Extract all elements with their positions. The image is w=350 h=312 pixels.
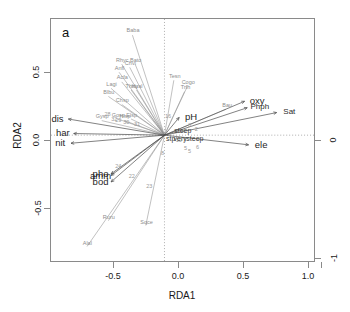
y-axis-title: RDA2: [12, 122, 23, 149]
x-axis-title: RDA1: [169, 290, 196, 301]
right-tick-mark-neg1: [315, 258, 321, 259]
factor-label: very: [174, 134, 187, 141]
species-label: Blbu: [103, 90, 114, 96]
species-label: Tesn: [169, 74, 181, 80]
site-label: 16: [165, 114, 171, 120]
right-axis-spine: [321, 262, 322, 268]
x-tick-label: -0.5: [105, 271, 121, 281]
site-label: 6: [196, 145, 199, 151]
site-label: 28: [104, 112, 110, 118]
env-variable-label: dis: [51, 114, 63, 124]
species-label: Baba: [127, 29, 140, 35]
site-label: 22: [129, 174, 135, 180]
site-label: 24: [115, 164, 121, 170]
vector-line: [108, 135, 164, 221]
species-label: Lagi: [106, 82, 116, 88]
species-label: Chvi: [125, 61, 136, 67]
y-tick-label: 0.5: [31, 66, 41, 79]
y-tick-label: 0.0: [31, 134, 41, 147]
site-label: 23: [146, 184, 152, 190]
species-label: Hyal: [132, 84, 143, 90]
site-label: 29: [115, 119, 121, 125]
species-label: Chsp: [116, 98, 129, 104]
right-axis-label-neg1: -1: [329, 254, 339, 262]
species-label: Bau: [222, 103, 232, 109]
species-label: Alal: [83, 242, 92, 248]
species-label: Acfa: [117, 76, 128, 82]
env-variable-label: Phph: [250, 103, 269, 111]
env-variable-label: ele: [255, 140, 268, 150]
site-label: 31: [134, 122, 140, 128]
x-tick-label: 0.5: [237, 271, 250, 281]
x-tick-label: 0.0: [172, 271, 185, 281]
right-tick-mark-0: [315, 140, 321, 141]
x-tick-mark: [243, 262, 244, 268]
vector-line: [164, 80, 173, 135]
rda-biplot-figure: RDA2 0.5 0.0 -0.5 -0.5 0.0 0.5 1.0 RDA1 …: [0, 0, 350, 312]
x-tick-mark: [308, 262, 309, 268]
env-variable-label: nit: [55, 139, 65, 149]
species-label: Elsp: [126, 113, 137, 119]
plot-area: BabaRhycBatoAnflChviAcfaLagiThsuHyalBlbu…: [50, 18, 315, 262]
env-variable-label: Sat: [283, 108, 295, 116]
x-tick-mark: [178, 262, 179, 268]
y-tick-label: -0.5: [33, 200, 43, 216]
site-label: 5: [184, 146, 187, 152]
env-variable-label: bod: [93, 178, 109, 188]
site-label: 8: [161, 151, 164, 157]
x-tick-label: 1.0: [302, 271, 315, 281]
species-label: Ruru: [103, 216, 115, 222]
right-axis-label-0: 0: [328, 137, 338, 142]
site-label: 5: [188, 150, 191, 156]
species-label: Anfl: [115, 66, 124, 72]
vector-line: [71, 135, 164, 143]
species-label: Sqce: [140, 220, 153, 226]
site-label: 2: [195, 127, 198, 133]
env-variable-label: pH: [185, 112, 197, 122]
factor-label: steep: [186, 134, 203, 141]
species-label: Trfh: [181, 85, 191, 91]
site-label: 30: [123, 120, 129, 126]
x-tick-mark: [113, 262, 114, 268]
factor-label: steep: [174, 126, 191, 133]
